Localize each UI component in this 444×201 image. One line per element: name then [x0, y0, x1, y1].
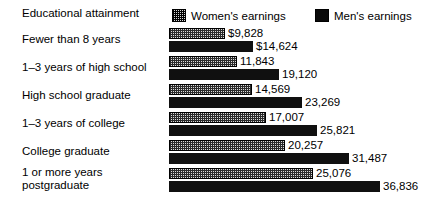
bar-value-label: 11,843: [240, 55, 274, 68]
plot-area: Fewer than 8 years1–3 years of high scho…: [0, 27, 444, 201]
bar-men: [169, 97, 302, 108]
category-label: 1–3 years of high school: [22, 61, 167, 74]
category-label: 1 or more years postgraduate: [22, 166, 167, 192]
bar-women: [169, 112, 266, 123]
bar-value-label: $14,624: [256, 40, 298, 53]
solid-black-swatch-icon: [315, 9, 329, 22]
legend-title: Educational attainment: [22, 6, 139, 20]
legend-entry-womens-earnings: Women's earnings: [172, 6, 286, 20]
bar-value-label: 36,836: [383, 180, 418, 193]
bar-value-label: 25,076: [316, 167, 351, 180]
bar-women: [169, 140, 285, 151]
bar-women: [169, 168, 313, 179]
bar-men: [169, 181, 380, 192]
earnings-by-education-bar-chart: Educational attainment Women's earnings …: [0, 0, 444, 201]
category-label: 1–3 years of college: [22, 117, 167, 130]
bar-value-label: 14,569: [255, 83, 290, 96]
category-label: High school graduate: [22, 89, 167, 102]
category-label: Fewer than 8 years: [22, 33, 167, 46]
legend-entry-mens-earnings: Men's earnings: [315, 6, 412, 20]
bar-women: [169, 56, 237, 67]
category-axis-labels: Fewer than 8 years1–3 years of high scho…: [0, 27, 166, 201]
bar-women: [169, 84, 252, 95]
bar-women: [169, 28, 225, 39]
bar-men: [169, 41, 253, 52]
bar-men: [169, 153, 349, 164]
bar-value-label: 20,257: [288, 139, 323, 152]
bar-men: [169, 69, 279, 80]
category-label: College graduate: [22, 145, 167, 158]
bar-value-label: 17,007: [269, 111, 304, 124]
bar-value-label: 23,269: [305, 96, 340, 109]
hatched-swatch-icon: [172, 9, 186, 22]
bar-value-label: 31,487: [352, 152, 387, 165]
bar-men: [169, 125, 317, 136]
bar-value-label: 19,120: [282, 68, 317, 81]
bar-value-label: $9,828: [228, 27, 263, 40]
legend-label-mens-earnings: Men's earnings: [334, 10, 412, 22]
legend-label-womens-earnings: Women's earnings: [191, 10, 286, 22]
bar-value-label: 25,821: [320, 124, 355, 137]
chart-legend: Educational attainment Women's earnings …: [0, 0, 444, 27]
bars-container: $9,828$14,62411,84319,12014,56923,26917,…: [169, 27, 444, 201]
